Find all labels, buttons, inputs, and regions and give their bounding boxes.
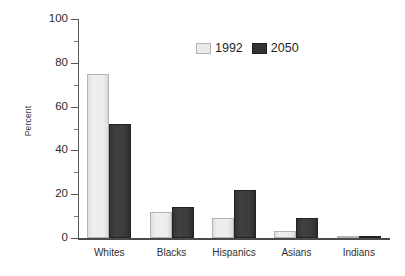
y-tick-60 xyxy=(71,107,78,108)
bar-chart-figure: Percent 020406080100 WhitesBlacksHispani… xyxy=(0,0,405,276)
bar-indians-1992 xyxy=(337,236,359,238)
bar-hispanics-2050 xyxy=(234,190,256,238)
y-tick-label-20: 20 xyxy=(28,188,68,200)
category-label-indians: Indians xyxy=(319,247,399,258)
y-tick-20 xyxy=(71,194,78,195)
y-tick-0 xyxy=(71,238,78,239)
y-tick-label-wrap: 0 xyxy=(22,232,68,244)
legend-entry-1992: 1992 xyxy=(196,42,243,55)
y-tick-label-wrap: 40 xyxy=(22,144,68,156)
y-tick-label-100: 100 xyxy=(28,13,68,25)
bar-asians-1992 xyxy=(274,231,296,238)
y-tick-40 xyxy=(71,150,78,151)
y-tick-label-wrap: 60 xyxy=(22,101,68,113)
legend-label-2050: 2050 xyxy=(271,42,299,55)
y-tick-label-wrap: 20 xyxy=(22,188,68,200)
y-tick-80 xyxy=(71,63,78,64)
y-tick-label-0: 0 xyxy=(28,232,68,244)
bar-whites-1992 xyxy=(87,74,109,238)
bar-whites-2050 xyxy=(109,124,131,238)
bar-indians-2050 xyxy=(359,236,381,238)
legend-swatch-2050-icon xyxy=(252,43,267,54)
y-tick-label-wrap: 80 xyxy=(22,57,68,69)
bar-blacks-1992 xyxy=(150,212,172,238)
bar-asians-2050 xyxy=(296,218,318,238)
bar-hispanics-1992 xyxy=(212,218,234,238)
y-tick-label-wrap: 100 xyxy=(22,13,68,25)
bar-blacks-2050 xyxy=(172,207,194,238)
bar-group-whites xyxy=(87,19,131,238)
y-tick-label-80: 80 xyxy=(28,57,68,69)
y-tick-100 xyxy=(71,19,78,20)
bar-group-blacks xyxy=(150,19,194,238)
legend-entry-2050: 2050 xyxy=(252,42,299,55)
x-axis-line xyxy=(78,238,390,240)
chart-legend: 1992 2050 xyxy=(196,42,299,55)
legend-label-1992: 1992 xyxy=(215,42,243,55)
y-tick-label-60: 60 xyxy=(28,101,68,113)
bar-group-indians xyxy=(337,19,381,238)
legend-swatch-1992-icon xyxy=(196,43,211,54)
y-tick-label-40: 40 xyxy=(28,144,68,156)
